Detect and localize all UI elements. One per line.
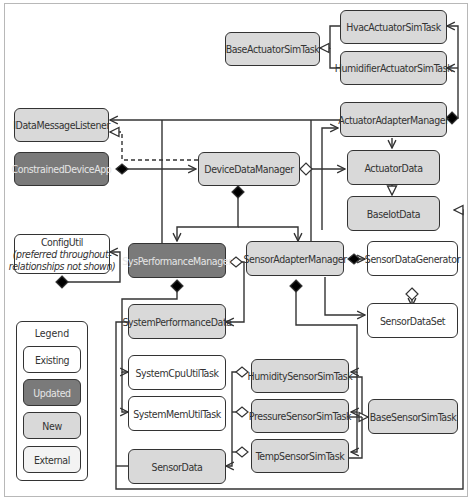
class-label: SystemCpuUtilTask bbox=[135, 367, 218, 379]
composition-diamond-spm bbox=[171, 280, 183, 292]
class-sensor-data-set[interactable]: SensorDataSet bbox=[367, 303, 458, 338]
class-label: HvacActuatorSimTask bbox=[346, 21, 440, 33]
class-label: SensorDataSet bbox=[380, 315, 445, 327]
class-base-actuator-sim-task[interactable]: BaseActuatorSimTask bbox=[225, 32, 320, 66]
legend-existing: Existing bbox=[23, 346, 81, 373]
aggregation-diamond-ddm bbox=[300, 163, 312, 175]
class-temp-sensor-sim-task[interactable]: TempSensorSimTask bbox=[251, 439, 349, 473]
class-label: HumiditySensorSimTask bbox=[248, 370, 353, 382]
class-label: SystemMemUtilTask bbox=[133, 408, 221, 420]
class-label: ConfigUtil bbox=[41, 236, 83, 248]
aggregation-diamond-generator bbox=[406, 288, 418, 300]
class-label: BaseSensorSimTask bbox=[370, 411, 457, 423]
legend: Legend Existing Updated New External bbox=[16, 321, 88, 481]
class-base-sensor-sim-task[interactable]: BaseSensorSimTask bbox=[368, 399, 458, 434]
humidity-generalization-line bbox=[349, 377, 368, 417]
hvac-generalization-line bbox=[320, 26, 340, 48]
class-sensor-adapter-manager[interactable]: SensorAdapterManager bbox=[246, 241, 344, 276]
sam-to-temp-line bbox=[351, 412, 357, 452]
aggregation-diamond-humidity bbox=[236, 367, 248, 377]
legend-external: External bbox=[23, 446, 81, 473]
legend-label: Updated bbox=[33, 387, 70, 399]
ddm-to-aam-line bbox=[322, 128, 338, 230]
class-actuator-data[interactable]: ActuatorData bbox=[347, 150, 440, 185]
class-label: ConstrainedDeviceApp bbox=[12, 163, 112, 175]
class-pressure-sensor-sim-task[interactable]: PressureSensorSimTask bbox=[251, 399, 349, 433]
class-humidifier-actuator-sim-task[interactable]: HumidifierActuatorSimTask bbox=[340, 51, 447, 85]
class-label: SensorAdapterManager bbox=[243, 253, 346, 265]
aggregation-diamond-pressure bbox=[236, 407, 248, 417]
class-label: DeviceDataManager bbox=[204, 163, 293, 175]
config-note: (preferred throughout- bbox=[13, 248, 112, 260]
spm-to-spd-line bbox=[226, 262, 244, 322]
class-label: PressureSensorSimTask bbox=[249, 410, 351, 422]
class-humidity-sensor-sim-task[interactable]: HumiditySensorSimTask bbox=[251, 359, 349, 393]
class-label: ActuatorData bbox=[364, 162, 422, 174]
class-label: SensorDataGenerator bbox=[365, 253, 460, 265]
class-label: BaseIotData bbox=[367, 208, 420, 220]
legend-new: New bbox=[23, 412, 81, 439]
class-sensor-data-generator[interactable]: SensorDataGenerator bbox=[367, 241, 458, 276]
legend-updated: Updated bbox=[23, 379, 81, 406]
config-note-2: relationships not shown) bbox=[9, 260, 116, 272]
composition-diamond-cda bbox=[116, 164, 128, 174]
class-label: IDataMessageListener bbox=[13, 119, 110, 131]
class-config-util[interactable]: ConfigUtil (preferred throughout- relati… bbox=[14, 234, 110, 274]
class-label: SensorData bbox=[152, 461, 203, 473]
class-actuator-adapter-manager[interactable]: ActuatorAdapterManager bbox=[340, 102, 447, 137]
class-label: SysPerformanceManager bbox=[122, 255, 231, 267]
legend-label: New bbox=[42, 420, 61, 432]
class-sys-performance-manager[interactable]: SysPerformanceManager bbox=[128, 243, 226, 278]
class-constrained-device-app[interactable]: ConstrainedDeviceApp bbox=[14, 152, 109, 186]
composition-diamond-sam-down bbox=[290, 280, 302, 292]
class-label: ActuatorAdapterManager bbox=[338, 114, 448, 126]
ddm-realizes-listener-line bbox=[110, 132, 198, 160]
class-label: HumidifierActuatorSimTask bbox=[335, 62, 453, 74]
class-label: BaseActuatorSimTask bbox=[226, 43, 320, 55]
class-base-iot-data[interactable]: BaseIotData bbox=[347, 196, 440, 231]
class-hvac-actuator-sim-task[interactable]: HvacActuatorSimTask bbox=[340, 10, 447, 44]
class-label: SystemPerformanceData bbox=[122, 316, 231, 328]
legend-label: Existing bbox=[35, 354, 69, 366]
aggregation-diamond-temp bbox=[236, 447, 248, 457]
legend-label: External bbox=[34, 454, 70, 466]
class-idata-message-listener[interactable]: IDataMessageListener bbox=[14, 108, 109, 142]
ddm-to-sam-line bbox=[238, 227, 298, 241]
composition-diamond-ddm bbox=[232, 186, 244, 198]
class-system-cpu-util-task[interactable]: SystemCpuUtilTask bbox=[128, 355, 226, 390]
ddm-composition-line bbox=[177, 196, 238, 241]
composition-diamond-sam-right bbox=[348, 254, 360, 264]
class-system-performance-data[interactable]: SystemPerformanceData bbox=[128, 304, 226, 339]
class-device-data-manager[interactable]: DeviceDataManager bbox=[198, 152, 300, 186]
class-label: TempSensorSimTask bbox=[256, 450, 345, 462]
class-sensor-data[interactable]: SensorData bbox=[128, 449, 226, 484]
composition-diamond-config bbox=[56, 276, 68, 288]
sam-to-dataset-line bbox=[325, 277, 365, 315]
legend-title: Legend bbox=[17, 327, 87, 339]
class-system-mem-util-task[interactable]: SystemMemUtilTask bbox=[128, 396, 226, 431]
